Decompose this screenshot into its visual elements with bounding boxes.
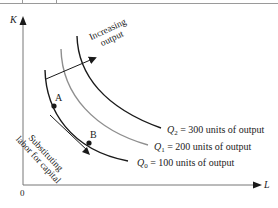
q0-label: Q0 = 100 units of output — [137, 158, 234, 170]
isoquant-q1 — [61, 49, 148, 145]
increasing-output-arrow — [46, 58, 95, 79]
y-axis-arrow-icon — [20, 16, 27, 25]
point-b-label: B — [90, 130, 97, 140]
point-a-marker — [51, 103, 56, 108]
q2-text: = 300 units of output — [178, 124, 264, 135]
substitution-arrowhead-icon — [82, 147, 90, 155]
x-axis-label: L — [264, 180, 270, 190]
q1-text: = 200 units of output — [165, 141, 251, 152]
substitution-arrow — [50, 115, 88, 151]
x-axis-arrow-icon — [253, 182, 262, 189]
q1-label: Q1 = 200 units of output — [154, 142, 251, 154]
y-axis-label: K — [10, 15, 17, 25]
q0-text: = 100 units of output — [148, 157, 234, 168]
isoquant-q0 — [45, 70, 128, 161]
point-a-label: A — [55, 93, 62, 103]
point-b-marker — [86, 140, 91, 145]
origin-label: 0 — [20, 189, 25, 198]
q2-label: Q2 = 300 units of output — [167, 125, 264, 137]
isoquant-chart — [0, 0, 278, 208]
